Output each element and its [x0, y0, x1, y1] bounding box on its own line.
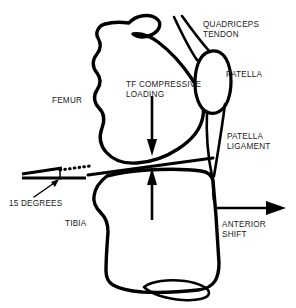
- angle-vertex-line: [22, 168, 62, 174]
- patella-ligament-insertion: [213, 176, 214, 200]
- anterior-shift-arrowhead: [266, 201, 286, 215]
- patella-ligament-anterior: [214, 104, 225, 176]
- label-patella-ligament: PATELLA LIGAMENT: [227, 132, 270, 152]
- knee-anatomy-illustration: [0, 0, 296, 308]
- patella-ligament-posterior: [207, 112, 212, 176]
- label-tibia: TIBIA: [65, 219, 86, 229]
- label-femur: FEMUR: [52, 96, 82, 106]
- label-quadriceps-tendon: QUADRICEPS TENDON: [203, 20, 259, 40]
- tibia-outline: [94, 169, 219, 292]
- label-patella: PATELLA: [226, 70, 262, 80]
- quadriceps-tendon-posterior: [174, 17, 197, 60]
- plateau-dotted-extension: [60, 166, 90, 170]
- label-15-degrees: 15 DEGREES: [9, 199, 62, 209]
- label-anterior-shift: ANTERIOR SHIFT: [222, 220, 266, 240]
- label-tf-compressive-loading: TF COMPRESSIVE LOADING: [126, 80, 201, 100]
- knee-biomechanics-diagram: QUADRICEPS TENDON PATELLA PATELLA LIGAME…: [0, 0, 296, 308]
- degrees-leader-arrowhead: [51, 179, 59, 187]
